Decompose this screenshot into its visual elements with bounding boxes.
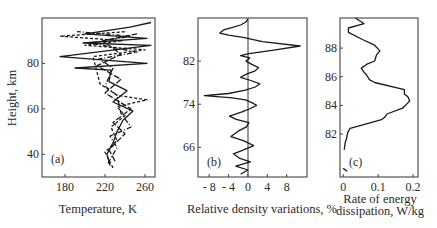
x-tick-label: 180 [56, 180, 74, 194]
y-tick-label: 82 [325, 127, 337, 141]
panel-a-tag: (a) [51, 152, 64, 166]
y-tick-label: 40 [27, 147, 39, 161]
panel-c-energy-dissipation: 00.10.2 82848688 (c) Rate of energy diss… [325, 18, 425, 218]
panel-c-x-axis-label-line-2: dissipation, W/kg [336, 204, 425, 218]
y-tick-label: 84 [325, 98, 337, 112]
panel-a-y-axis-label: Height, km [5, 70, 19, 127]
y-tick-label: 82 [183, 54, 195, 68]
figure-three-panel-atmospheric-profiles: 180220260 406080 (a) Temperature, K Heig… [0, 0, 437, 228]
y-tick-label: 80 [27, 56, 39, 70]
x-tick-label: - 4 [222, 180, 235, 194]
trace-density-variation [204, 19, 300, 174]
panel-c-tag: (c) [349, 155, 362, 169]
panel-b-density-variations: - 8- 4048 667482 (b) Relative density va… [183, 18, 337, 216]
panel-a-temperature: 180220260 406080 (a) Temperature, K Heig… [5, 18, 155, 216]
panel-b-x-axis-label: Relative density variations, % [187, 202, 337, 216]
panel-b-tag: (b) [207, 155, 221, 169]
panel-b-frame [198, 18, 307, 177]
x-tick-label: 0 [245, 180, 251, 194]
x-tick-label: 4 [264, 180, 270, 194]
x-tick-label: 260 [136, 180, 154, 194]
trace-dissipation-rate [344, 18, 409, 150]
panel-c-frame [340, 18, 418, 177]
x-tick-label: 220 [96, 180, 114, 194]
panel-c-traces [343, 18, 410, 171]
y-tick-label: 74 [183, 97, 195, 111]
x-tick-label: - 8 [203, 180, 216, 194]
y-tick-label: 60 [27, 102, 39, 116]
y-tick-label: 88 [325, 41, 337, 55]
trace-profile-1 [60, 23, 151, 166]
panel-b-traces [204, 19, 300, 174]
trace-dissipation-rate-lower-segment [343, 168, 347, 171]
y-tick-label: 66 [183, 140, 195, 154]
x-tick-label: 8 [284, 180, 290, 194]
y-tick-label: 86 [325, 70, 337, 84]
panel-a-x-axis-label: Temperature, K [59, 202, 137, 216]
panel-a-traces [60, 23, 151, 168]
